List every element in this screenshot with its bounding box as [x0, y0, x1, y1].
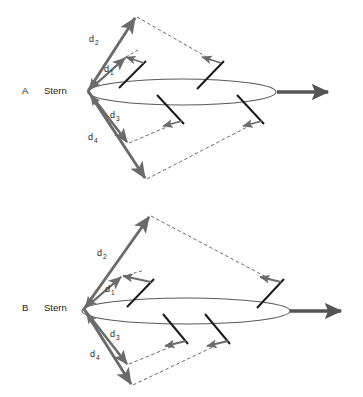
distance-label-d2-base: d [89, 34, 94, 44]
distance-label-d3-base: d [110, 110, 115, 120]
distance-label-d1-sub: 1 [111, 289, 115, 296]
distance-label-d2-base: d [97, 248, 102, 258]
distance-label-d2-sub: 2 [103, 253, 107, 260]
distance-label-d4-sub: 4 [94, 137, 98, 144]
distance-label-d3-sub: 3 [116, 334, 120, 341]
distance-label-d1-base: d [104, 64, 109, 74]
distance-label-d4-sub: 4 [96, 354, 100, 361]
distance-label-d1-sub: 1 [110, 69, 114, 76]
distance-label-d3-base: d [110, 329, 115, 339]
distance-label-d2-sub: 2 [95, 39, 99, 46]
panel-a-stern-label: Stern [44, 85, 67, 96]
distance-label-d3-sub: 3 [116, 115, 120, 122]
panel-b-label: B [22, 302, 28, 313]
vortex-wake-figure: A Stern d 1 [0, 0, 363, 397]
distance-label-d4-base: d [88, 132, 93, 142]
distance-label-d4-base: d [90, 349, 95, 359]
panel-b-stern-label: Stern [44, 302, 67, 313]
distance-label-d1-base: d [105, 284, 110, 294]
panel-a-label: A [22, 85, 29, 96]
